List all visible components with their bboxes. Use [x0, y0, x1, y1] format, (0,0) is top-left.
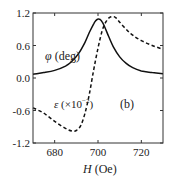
chart-figure: 6807007201.20.60.0-0.6-1.2 φ (deg) ε (×1… — [0, 0, 173, 183]
y-tick-label: 0.6 — [16, 40, 30, 52]
y-tick-label: 1.2 — [16, 7, 30, 19]
plot-frame — [33, 13, 163, 143]
phi-curve — [33, 19, 163, 74]
x-axis-label: H (Oe) — [82, 162, 117, 176]
y-tick-label: -0.6 — [13, 105, 31, 117]
y-tick-label: 0.0 — [16, 72, 30, 84]
y-tick-label: -1.2 — [13, 137, 30, 149]
panel-label: (b) — [120, 97, 134, 111]
x-tick-label: 680 — [46, 146, 63, 158]
x-tick-label: 700 — [90, 146, 107, 158]
x-tick-label: 720 — [133, 146, 150, 158]
chart-svg: 6807007201.20.60.0-0.6-1.2 φ (deg) ε (×1… — [0, 0, 173, 183]
epsilon-curve — [33, 17, 163, 132]
epsilon-label: ε (×10−2) — [54, 97, 93, 111]
phi-label: φ (deg) — [45, 49, 80, 63]
axis-ticks: 6807007201.20.60.0-0.6-1.2 — [13, 7, 163, 158]
plot-curves — [33, 17, 163, 132]
